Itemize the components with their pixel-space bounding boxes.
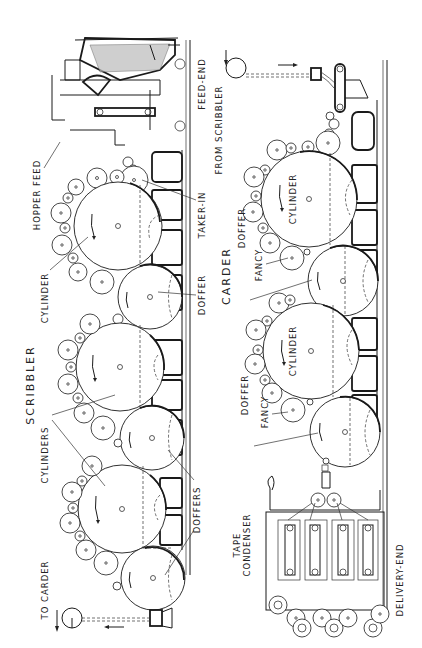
scribbler-delivery	[55, 608, 172, 632]
condenser-label: CONDENSER	[242, 514, 252, 577]
carder-cylinder-2-label: CYLINDER	[288, 326, 298, 376]
hopper-feed-leader	[44, 142, 60, 168]
carder-title: CARDER	[220, 247, 233, 305]
doffers-label: DOFFERS	[192, 487, 202, 534]
tape-label: TAPE	[232, 533, 242, 559]
condenser-bobbins	[269, 596, 389, 637]
doffer-2-label: DOFFER	[240, 375, 250, 415]
cylinder-label: CYLINDER	[40, 273, 50, 323]
carder-section: CYLINDER	[214, 50, 405, 637]
fancy-1-label: FANCY	[254, 249, 264, 281]
carder-feed	[224, 50, 368, 155]
delivery-end-label: DELIVERY-END	[395, 543, 405, 616]
taker-in-label: TAKER-IN	[197, 192, 207, 240]
hopper-feed	[52, 38, 185, 145]
scribbler-doffer-2	[114, 406, 184, 470]
hopper-feed-label: HOPPER FEED	[32, 160, 42, 231]
cylinders-label: CYLINDERS	[40, 427, 50, 484]
carder-doffer-2	[307, 397, 380, 467]
scribbler-title: SCRIBBLER	[24, 345, 37, 424]
doffer-2-leader	[254, 433, 318, 446]
carder-cylinder-1-label: CYLINDER	[288, 174, 298, 224]
to-carder-label: TO CARDER	[40, 560, 50, 620]
doffer-1-label: DOFFER	[237, 208, 247, 248]
scribbler-section: SCRIBBLER FEED-END HOPPER FEED TAKER-IN …	[24, 38, 207, 632]
fancy-2-label: FANCY	[260, 396, 270, 428]
scribbler-doffer-1	[113, 264, 182, 329]
condenser-tape-units	[278, 503, 378, 580]
carding-machine-diagram: SCRIBBLER FEED-END HOPPER FEED TAKER-IN …	[0, 0, 422, 648]
feed-end-label: FEED-END	[197, 58, 207, 110]
scribbler-doffer-3	[113, 546, 185, 610]
tape-condenser	[266, 458, 389, 637]
doffer-label: DOFFER	[197, 275, 207, 315]
from-scribbler-label: FROM SCRIBBLER	[214, 86, 224, 175]
